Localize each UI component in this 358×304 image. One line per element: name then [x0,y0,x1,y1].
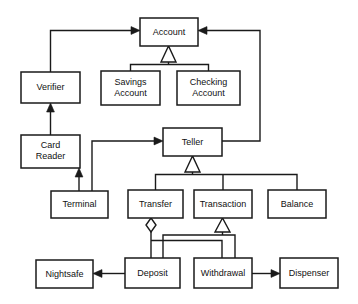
class-box-account[interactable]: Account [140,18,198,46]
edge-account-subclasses [131,62,209,71]
arrowhead-cardreader-verifier [47,103,55,112]
class-box-terminal[interactable]: Terminal [51,191,108,218]
class-box-teller[interactable]: Teller [163,128,222,156]
arrowhead-terminal-cardreader [75,168,83,177]
arrowhead-verifier-account [131,27,140,35]
edge-teller-subclasses [156,172,298,190]
arrowhead-teller-account [198,27,207,35]
class-box-checking-account[interactable]: Checking Account [177,71,240,105]
class-box-layer: Account Verifier Savings Account Checkin… [21,18,338,288]
arrowhead-withdrawal-dispenser [271,270,280,278]
class-rect-balance[interactable] [268,190,326,218]
class-rect-withdrawal[interactable] [194,258,252,288]
class-rect-verifier[interactable] [21,72,80,103]
edge-terminal-teller [92,141,155,191]
edge-transfer-parts [151,232,222,258]
class-box-card-reader[interactable]: Card Reader [21,135,80,168]
class-rect-account[interactable] [140,18,198,46]
class-box-balance[interactable]: Balance [268,190,326,218]
class-box-verifier[interactable]: Verifier [21,72,80,103]
class-box-withdrawal[interactable]: Withdrawal [194,258,252,288]
edge-verifier-account [51,31,133,73]
class-rect-transfer[interactable] [128,190,183,218]
class-box-nightsafe[interactable]: Nightsafe [36,260,93,288]
aggregation-diamond-transfer [146,218,156,232]
class-box-savings-account[interactable]: Savings Account [101,71,160,105]
class-rect-checking-account[interactable] [177,71,240,105]
class-box-dispenser[interactable]: Dispenser [280,258,338,288]
class-rect-card-reader[interactable] [21,135,80,168]
class-box-deposit[interactable]: Deposit [125,258,180,288]
class-rect-savings-account[interactable] [101,71,160,105]
class-rect-dispenser[interactable] [280,258,338,288]
class-box-transaction[interactable]: Transaction [194,190,252,218]
arrowhead-deposit-nightsafe [93,270,102,278]
arrowhead-terminal-teller [154,137,163,145]
class-box-transfer[interactable]: Transfer [128,190,183,218]
edge-transaction-subclasses [163,232,235,258]
class-rect-nightsafe[interactable] [36,260,93,288]
class-rect-terminal[interactable] [51,191,108,218]
generalization-triangle-transaction [215,218,230,232]
class-rect-transaction[interactable] [194,190,252,218]
uml-class-diagram: Account Verifier Savings Account Checkin… [0,0,358,304]
class-rect-deposit[interactable] [125,258,180,288]
generalization-triangle-account [161,46,176,62]
diagram-canvas: Account Verifier Savings Account Checkin… [0,0,358,304]
generalization-triangle-teller [185,156,200,172]
class-rect-teller[interactable] [163,128,222,156]
